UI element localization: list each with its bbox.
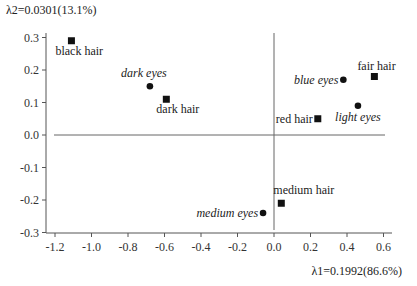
y-tick-label: 0.2 <box>24 63 39 77</box>
y-tick-label: 0.3 <box>24 31 39 45</box>
blue-eyes-circle-marker <box>340 76 347 83</box>
fair-hair-square-marker <box>371 73 378 80</box>
dark-eyes-circle-marker <box>147 83 154 90</box>
medium-eyes-circle-marker <box>260 210 267 217</box>
blue-eyes-label: blue eyes <box>294 73 339 87</box>
medium-eyes-label: medium eyes <box>196 206 258 220</box>
y-tick-label: 0.1 <box>24 96 39 110</box>
black-hair-label: black hair <box>55 44 103 58</box>
x-tick-label: -1.2 <box>46 240 65 254</box>
axes: 0.30.20.10.0-0.1-0.2-0.3-1.2-1.0-0.8-0.6… <box>20 31 392 255</box>
x-tick-label: -0.6 <box>155 240 174 254</box>
data-points: black hairdark hairfair hairred hairmedi… <box>55 37 395 220</box>
x-tick-label: 0.4 <box>340 240 355 254</box>
y-axis-title: λ2=0.0301(13.1%) <box>6 3 97 17</box>
x-axis-title: λ1=0.1992(86.6%) <box>311 264 402 278</box>
red-hair-label: red hair <box>276 112 313 126</box>
fair-hair-label: fair hair <box>357 59 395 73</box>
y-tick-label: -0.3 <box>20 226 39 240</box>
light-eyes-label: light eyes <box>335 110 381 124</box>
x-tick-label: 0.2 <box>303 240 318 254</box>
x-tick-label: -0.2 <box>228 240 247 254</box>
y-tick-label: 0.0 <box>24 128 39 142</box>
medium-hair-square-marker <box>278 200 285 207</box>
x-tick-label: -1.0 <box>82 240 101 254</box>
red-hair-square-marker <box>314 115 321 122</box>
medium-hair-label: medium hair <box>273 183 334 197</box>
light-eyes-circle-marker <box>355 102 362 109</box>
x-tick-label: -0.4 <box>192 240 211 254</box>
correspondence-analysis-plot: 0.30.20.10.0-0.1-0.2-0.3-1.2-1.0-0.8-0.6… <box>0 0 417 286</box>
dark-hair-label: dark hair <box>156 102 199 116</box>
reference-lines <box>54 33 385 230</box>
x-tick-label: 0.6 <box>376 240 391 254</box>
x-tick-label: -0.8 <box>119 240 138 254</box>
dark-eyes-label: dark eyes <box>121 66 167 80</box>
y-tick-label: -0.1 <box>20 161 39 175</box>
x-tick-label: 0.0 <box>267 240 282 254</box>
y-tick-label: -0.2 <box>20 193 39 207</box>
